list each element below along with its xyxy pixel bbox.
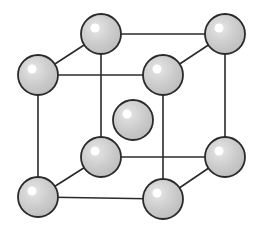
atom-sphere (81, 137, 121, 177)
atom-highlight (91, 24, 100, 33)
atom-front-bottom-right (143, 179, 183, 219)
atom-front-bottom-left (18, 177, 58, 217)
atom-sphere (205, 14, 245, 54)
atom-sphere (143, 179, 183, 219)
atom-highlight (215, 147, 224, 156)
atom-sphere (205, 137, 245, 177)
atom-sphere (81, 14, 121, 54)
atom-back-bottom-left (81, 137, 121, 177)
atom-sphere (18, 55, 58, 95)
atom-back-bottom-right (205, 137, 245, 177)
atom-highlight (28, 65, 37, 74)
atom-body-center (113, 100, 153, 140)
atom-highlight (91, 147, 100, 156)
atom-highlight (28, 187, 37, 196)
atom-sphere (143, 55, 183, 95)
atom-sphere (18, 177, 58, 217)
atom-front-top-right (143, 55, 183, 95)
atom-highlight (153, 189, 162, 198)
bcc-unit-cell-diagram (0, 0, 266, 233)
atom-highlight (153, 65, 162, 74)
atom-back-top-right (205, 14, 245, 54)
atom-highlight (123, 110, 132, 119)
atom-front-top-left (18, 55, 58, 95)
atom-highlight (215, 24, 224, 33)
atom-back-top-left (81, 14, 121, 54)
atoms (18, 14, 245, 219)
atom-sphere (113, 100, 153, 140)
